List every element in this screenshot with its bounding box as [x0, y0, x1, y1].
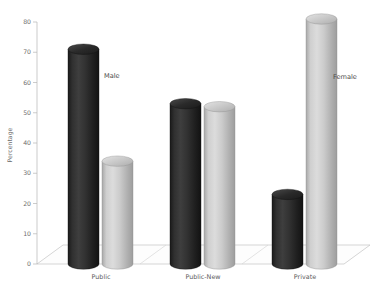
cylinder-bar — [102, 156, 133, 269]
y-tick-label: 20 — [23, 200, 31, 207]
series-annotation-male: Male — [104, 72, 120, 80]
bars-layer — [68, 14, 337, 269]
category-label: Public-New — [185, 273, 220, 281]
y-tick-label: 50 — [23, 109, 31, 116]
series-annotation-female: Female — [333, 73, 357, 81]
y-tick-label: 70 — [23, 48, 31, 55]
bar-chart: 01020304050607080 Percentage PublicPubli… — [0, 0, 379, 293]
cylinder-bar — [306, 14, 337, 269]
y-tick-label: 40 — [23, 139, 31, 146]
y-axis-title: Percentage — [6, 127, 14, 162]
cylinder-bar — [204, 102, 235, 270]
cylinder-bar — [68, 44, 99, 269]
category-labels: PublicPublic-NewPrivate — [92, 273, 317, 281]
y-axis: 01020304050607080 — [23, 18, 37, 267]
y-tick-label: 80 — [23, 18, 31, 25]
y-tick-label: 10 — [23, 230, 31, 237]
cylinder-bar — [272, 189, 303, 269]
category-label: Private — [294, 273, 316, 281]
y-tick-label: 30 — [23, 169, 31, 176]
cylinder-bar — [170, 98, 201, 269]
chart-container: 01020304050607080 Percentage PublicPubli… — [0, 0, 379, 293]
y-tick-label: 60 — [23, 79, 31, 86]
y-tick-label: 0 — [27, 260, 31, 267]
category-label: Public — [92, 273, 111, 281]
